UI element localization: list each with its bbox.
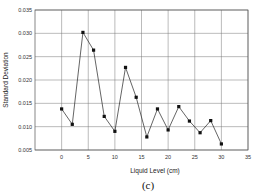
x-tick-label: 20 [165, 154, 171, 160]
data-point-marker [177, 105, 180, 108]
data-point-marker [198, 131, 201, 134]
data-point-marker [81, 31, 84, 34]
data-point-marker [167, 128, 170, 131]
data-point-marker [220, 142, 223, 145]
data-point-marker [124, 66, 127, 69]
y-tick-label: 0.005 [18, 147, 32, 153]
x-axis-ticks: 05101520253035 [60, 154, 251, 160]
y-axis-label: Standard Deviation [2, 52, 9, 108]
data-point-marker [60, 107, 63, 110]
y-tick-label: 0.020 [18, 77, 32, 83]
y-tick-label: 0.015 [18, 100, 32, 106]
chart: 0.0050.0100.0150.0200.0250.0300.035 0510… [0, 0, 254, 192]
x-tick-label: 25 [192, 154, 198, 160]
figure-caption: (c) [142, 179, 155, 192]
x-axis-label: Liquid Level (cm) [130, 167, 180, 175]
data-point-marker [71, 123, 74, 126]
y-tick-label: 0.030 [18, 30, 32, 36]
y-axis-ticks: 0.0050.0100.0150.0200.0250.0300.035 [18, 7, 32, 153]
x-tick-label: 30 [218, 154, 224, 160]
grid-lines [35, 10, 248, 150]
x-tick-label: 5 [87, 154, 90, 160]
data-point-marker [156, 107, 159, 110]
x-tick-label: 10 [112, 154, 118, 160]
data-point-marker [113, 130, 116, 133]
y-tick-label: 0.035 [18, 7, 32, 13]
data-point-marker [92, 49, 95, 52]
x-tick-label: 15 [138, 154, 144, 160]
data-point-marker [103, 115, 106, 118]
y-tick-label: 0.010 [18, 124, 32, 130]
y-tick-label: 0.025 [18, 54, 32, 60]
data-point-marker [145, 135, 148, 138]
x-tick-label: 35 [245, 154, 251, 160]
data-point-marker [209, 119, 212, 122]
x-tick-label: 0 [60, 154, 63, 160]
data-point-marker [135, 96, 138, 99]
data-point-marker [188, 119, 191, 122]
